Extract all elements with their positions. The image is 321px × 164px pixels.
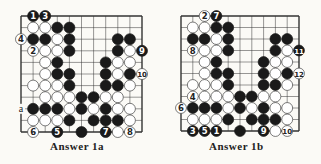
white-stone	[124, 45, 135, 56]
white-stone	[40, 45, 51, 56]
white-stone	[211, 80, 222, 91]
black-stone	[246, 91, 257, 102]
black-stone	[211, 57, 222, 68]
white-stone	[270, 91, 281, 102]
white-stone	[112, 69, 123, 80]
white-stone: 10	[137, 69, 148, 80]
move-number: 4	[190, 92, 196, 102]
white-stone	[124, 115, 135, 126]
black-stone: 7	[211, 11, 222, 22]
black-stone	[211, 68, 222, 79]
move-number: 2	[30, 46, 36, 56]
black-stone	[88, 92, 99, 103]
move-number: 6	[30, 127, 36, 137]
black-stone	[112, 34, 123, 45]
white-stone: 6	[176, 103, 187, 114]
white-stone	[282, 45, 293, 56]
white-stone	[282, 80, 293, 91]
black-stone	[223, 68, 234, 79]
black-stone	[64, 45, 75, 56]
black-stone	[100, 103, 111, 114]
move-number: 7	[103, 127, 109, 137]
move-number: 10	[137, 71, 147, 79]
white-stone: 2	[28, 45, 39, 56]
black-stone	[258, 68, 269, 79]
white-stone	[211, 91, 222, 102]
white-stone	[124, 80, 135, 91]
black-stone	[64, 34, 75, 45]
move-number: 8	[190, 46, 196, 56]
white-stone: 6	[28, 127, 39, 138]
white-stone	[187, 114, 198, 125]
black-stone: 5	[199, 126, 210, 137]
white-stone	[40, 92, 51, 103]
white-stone	[199, 91, 210, 102]
white-stone	[270, 103, 281, 114]
white-stone	[112, 103, 123, 114]
white-stone	[246, 103, 257, 114]
white-stone	[28, 22, 39, 33]
white-stone	[28, 115, 39, 126]
move-number: 12	[294, 71, 304, 79]
black-stone	[282, 68, 293, 79]
white-stone	[270, 57, 281, 68]
black-stone	[258, 103, 269, 114]
white-stone	[40, 57, 51, 68]
black-stone	[223, 114, 234, 125]
white-stone	[52, 80, 63, 91]
black-stone	[223, 45, 234, 56]
black-stone	[76, 103, 87, 114]
black-stone	[100, 80, 111, 91]
black-stone	[124, 69, 135, 80]
black-stone	[187, 34, 198, 45]
white-stone	[40, 115, 51, 126]
white-stone	[282, 103, 293, 114]
move-number: 1	[213, 126, 219, 136]
white-stone: 8	[187, 45, 198, 56]
black-stone: 9	[258, 126, 269, 137]
black-stone: 1	[211, 126, 222, 137]
white-stone	[199, 45, 210, 56]
white-stone	[52, 45, 63, 56]
white-stone	[199, 114, 210, 125]
white-stone	[124, 103, 135, 114]
black-stone	[112, 115, 123, 126]
point-label: a	[19, 103, 24, 114]
white-stone	[223, 91, 234, 102]
black-stone	[270, 45, 281, 56]
move-number: 4	[18, 34, 24, 44]
black-stone	[28, 103, 39, 114]
black-stone	[112, 80, 123, 91]
move-number: 9	[261, 126, 267, 136]
black-stone	[40, 34, 51, 45]
white-stone	[282, 114, 293, 125]
white-stone	[223, 103, 234, 114]
black-stone	[270, 80, 281, 91]
caption-answer-1b: Answer 1b	[209, 140, 264, 152]
black-stone	[52, 103, 63, 114]
black-stone	[100, 69, 111, 80]
black-stone	[258, 80, 269, 91]
black-stone	[246, 114, 257, 125]
white-stone	[112, 127, 123, 138]
black-stone	[64, 80, 75, 91]
black-stone: 3	[40, 11, 51, 22]
black-stone	[258, 114, 269, 125]
move-number: 5	[202, 126, 208, 136]
black-stone	[282, 34, 293, 45]
white-stone	[270, 126, 281, 137]
black-stone	[187, 103, 198, 114]
move-number: 9	[139, 46, 145, 56]
white-stone	[282, 57, 293, 68]
black-stone	[76, 92, 87, 103]
white-stone	[100, 92, 111, 103]
move-number: 7	[213, 11, 219, 21]
black-stone	[52, 57, 63, 68]
black-stone	[211, 103, 222, 114]
black-stone	[199, 34, 210, 45]
move-number: 10	[282, 128, 292, 136]
white-stone	[28, 80, 39, 91]
white-stone	[52, 115, 63, 126]
black-stone	[76, 127, 87, 138]
white-stone: 2	[199, 11, 210, 22]
